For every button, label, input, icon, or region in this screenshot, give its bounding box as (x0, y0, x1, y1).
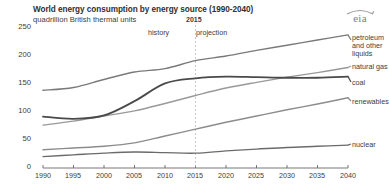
legend-label-renewables: renewables (352, 98, 389, 106)
leader-line-petroleum-and-other-liquids (348, 35, 351, 40)
legend-petroleum-line3: liquids (352, 49, 372, 58)
leader-line-natural-gas (348, 66, 351, 67)
legend-label-natural-gas: natural gas (352, 63, 388, 71)
series-line-natural-gas (43, 67, 348, 125)
leader-line-renewables (348, 98, 351, 101)
legend-leader-lines (348, 35, 351, 145)
leader-line-coal (348, 77, 351, 82)
legend-label-nuclear: nuclear (352, 141, 376, 149)
legend-label-coal: coal (352, 79, 365, 87)
leader-line-nuclear (348, 144, 351, 145)
legend-label-petroleum: petroleum and other liquids (352, 34, 384, 59)
